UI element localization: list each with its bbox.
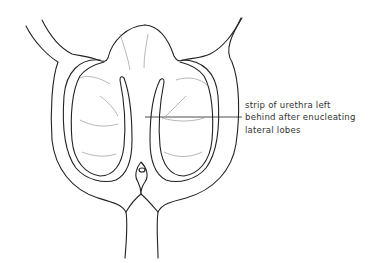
outer-outline-right: [157, 18, 242, 258]
urethra-left: [126, 194, 141, 212]
urethra-right: [141, 194, 158, 212]
annotation-line: lateral lobes: [245, 124, 356, 136]
figure: strip of urethra left behind after enucl…: [0, 0, 378, 263]
annotation-line: behind after enucleating: [245, 111, 356, 123]
verumontanum: [136, 162, 147, 194]
bladder-neck-right: [145, 18, 241, 61]
annotation-label: strip of urethra left behind after enucl…: [245, 99, 356, 136]
tissue-texture: [80, 34, 208, 157]
outer-outline-left: [26, 26, 127, 258]
bladder-neck-left: [42, 20, 145, 61]
annotation-line: strip of urethra left: [245, 99, 356, 111]
